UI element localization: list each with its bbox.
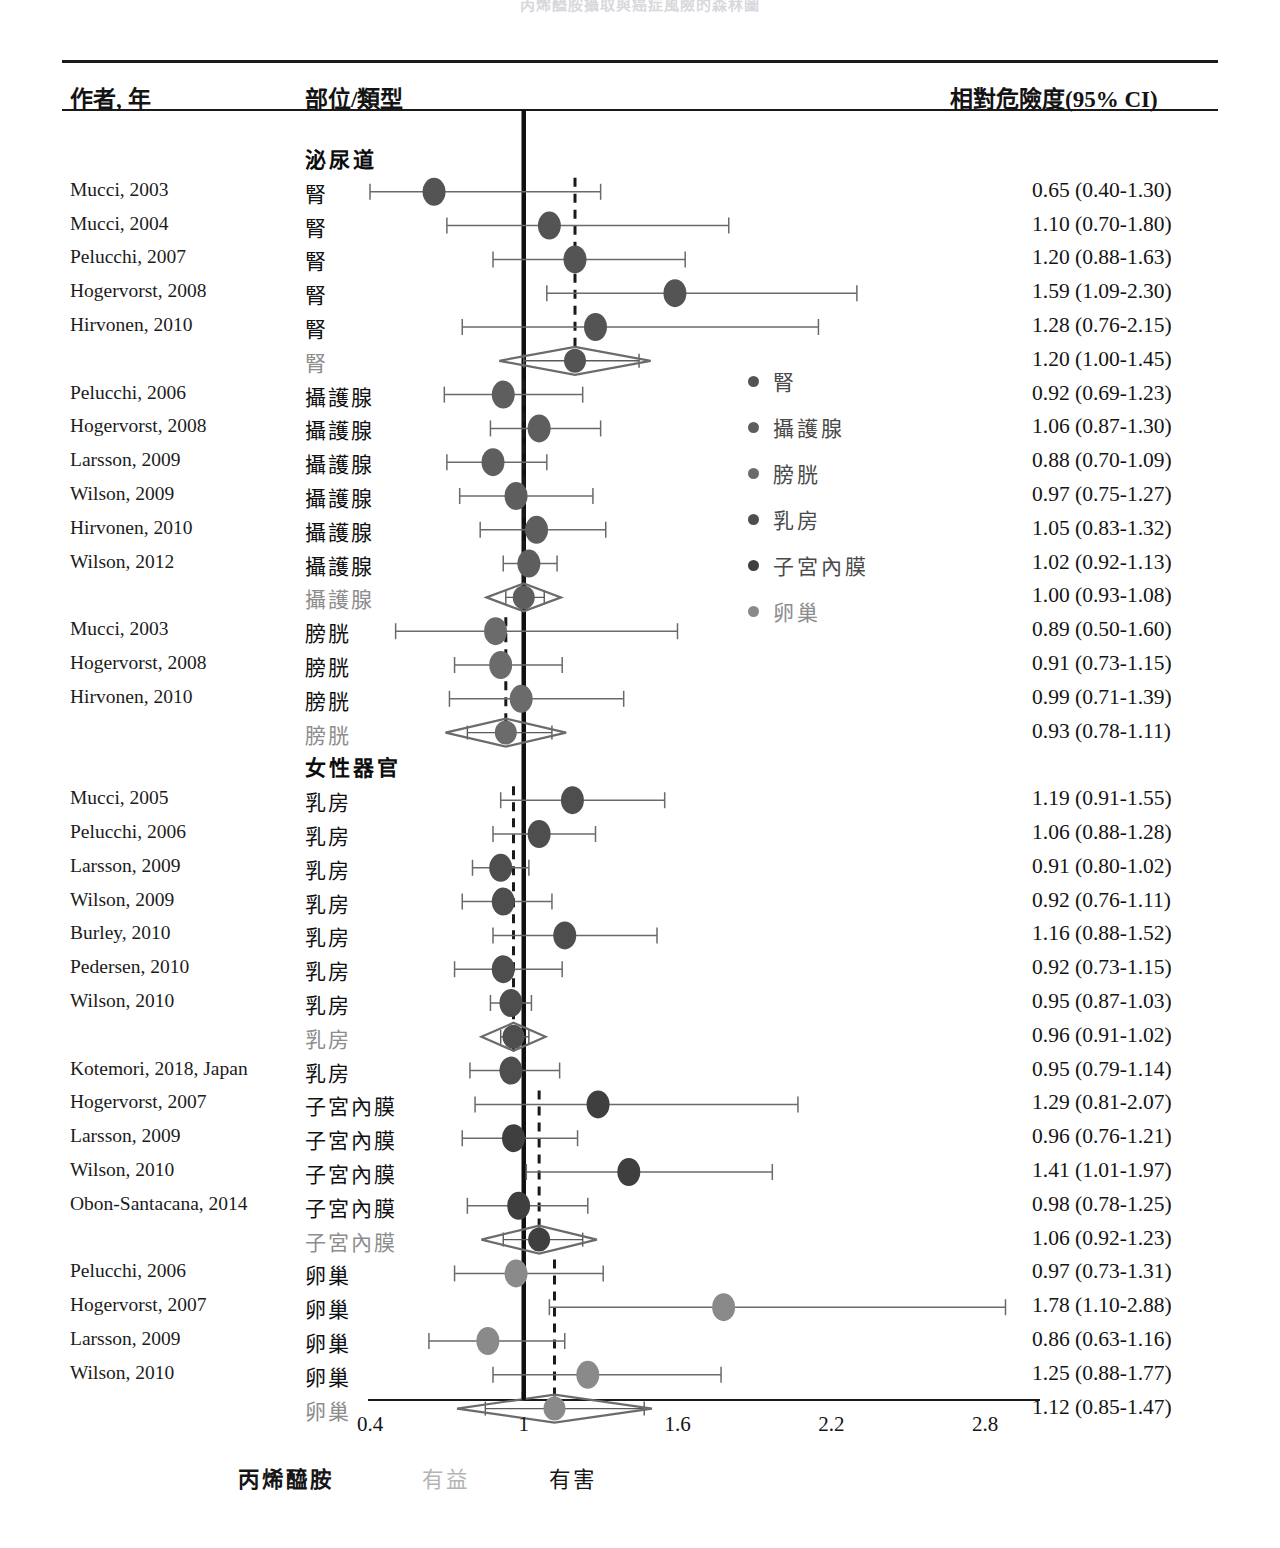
- row-site: 乳房: [305, 888, 455, 918]
- row-estimate: 0.96 (0.91-1.02): [1032, 1023, 1242, 1048]
- row-author: Hogervorst, 2008: [70, 280, 302, 302]
- row-site: 膀胱: [305, 617, 455, 647]
- row-site: 乳房: [305, 786, 455, 816]
- header-top-rule: [62, 60, 1218, 63]
- row-site: 乳房: [305, 955, 455, 985]
- row-estimate: 0.95 (0.87-1.03): [1032, 989, 1242, 1014]
- row-estimate: 1.78 (1.10-2.88): [1032, 1293, 1242, 1318]
- row-estimate: 1.29 (0.81-2.07): [1032, 1090, 1242, 1115]
- row-author: Wilson, 2010: [70, 1159, 302, 1181]
- row-estimate: 1.12 (0.85-1.47): [1032, 1395, 1242, 1420]
- footer-harm-label: 有害: [549, 1462, 597, 1493]
- row-site: 攝護腺: [305, 550, 455, 580]
- row-author: Hirvonen, 2010: [70, 686, 302, 708]
- row-estimate: 1.25 (0.88-1.77): [1032, 1361, 1242, 1386]
- row-estimate: 0.91 (0.80-1.02): [1032, 854, 1242, 879]
- row-site: 卵巢: [305, 1293, 455, 1323]
- row-estimate: 1.19 (0.91-1.55): [1032, 786, 1242, 811]
- row-author: Mucci, 2003: [70, 618, 302, 640]
- row-site: 乳房: [305, 921, 455, 951]
- row-estimate: 1.28 (0.76-2.15): [1032, 313, 1242, 338]
- legend-label: 攝護腺: [773, 412, 845, 442]
- row-estimate: 0.95 (0.79-1.14): [1032, 1057, 1242, 1082]
- row-author: Larsson, 2009: [70, 1328, 302, 1350]
- row-site: 腎: [305, 313, 455, 343]
- row-author: Mucci, 2004: [70, 213, 302, 235]
- row-estimate: 1.20 (1.00-1.45): [1032, 347, 1242, 372]
- row-estimate: 1.06 (0.87-1.30): [1032, 414, 1242, 439]
- row-author: Pelucchi, 2006: [70, 382, 302, 404]
- row-site: 腎: [305, 279, 455, 309]
- row-author: Wilson, 2010: [70, 1362, 302, 1384]
- legend-label: 膀胱: [773, 458, 821, 488]
- forest-plot: 丙烯醯胺攝取與癌症風險的森林圖 作者, 年 部位/類型 相對危險度(95% CI…: [0, 0, 1280, 1548]
- row-site: 子宮內膜: [305, 1192, 455, 1222]
- row-site: 攝護腺: [305, 583, 455, 613]
- row-site: 卵巢: [305, 1361, 455, 1391]
- row-estimate: 0.89 (0.50-1.60): [1032, 617, 1242, 642]
- row-estimate: 1.16 (0.88-1.52): [1032, 921, 1242, 946]
- legend-item: 膀胱: [748, 450, 978, 496]
- row-author: Mucci, 2005: [70, 787, 302, 809]
- row-site: 腎: [305, 245, 455, 275]
- row-site: 乳房: [305, 1057, 455, 1087]
- legend-dot-icon: [748, 606, 759, 617]
- legend-dot-icon: [748, 514, 759, 525]
- column-header-author: 作者, 年: [70, 80, 151, 114]
- row-estimate: 0.93 (0.78-1.11): [1032, 719, 1242, 744]
- row-estimate: 0.92 (0.73-1.15): [1032, 955, 1242, 980]
- row-site: 膀胱: [305, 719, 455, 749]
- row-author: Hogervorst, 2008: [70, 415, 302, 437]
- row-estimate: 0.92 (0.69-1.23): [1032, 381, 1242, 406]
- row-author: Hogervorst, 2007: [70, 1091, 302, 1113]
- row-estimate: 1.02 (0.92-1.13): [1032, 550, 1242, 575]
- row-estimate: 0.98 (0.78-1.25): [1032, 1192, 1242, 1217]
- row-author: Larsson, 2009: [70, 449, 302, 471]
- row-site: 子宮內膜: [305, 1226, 455, 1256]
- row-site: 攝護腺: [305, 448, 455, 478]
- row-estimate: 0.91 (0.73-1.15): [1032, 651, 1242, 676]
- row-estimate: 1.20 (0.88-1.63): [1032, 245, 1242, 270]
- column-header-site: 部位/類型: [305, 80, 403, 114]
- footer-exposure-label: 丙烯醯胺: [238, 1462, 334, 1493]
- footer-benefit-label: 有益: [422, 1462, 470, 1493]
- legend-label: 乳房: [773, 504, 821, 534]
- row-estimate: 0.99 (0.71-1.39): [1032, 685, 1242, 710]
- row-site: 腎: [305, 212, 455, 242]
- row-author: Hogervorst, 2008: [70, 652, 302, 674]
- row-site: 乳房: [305, 1023, 455, 1053]
- row-author: Wilson, 2009: [70, 483, 302, 505]
- row-estimate: 1.06 (0.88-1.28): [1032, 820, 1242, 845]
- axis-tick-label: 0.4: [357, 1412, 383, 1437]
- row-site: 子宮內膜: [305, 1158, 455, 1188]
- axis-bottom-rule: [368, 1399, 1040, 1401]
- group-header: 女性器官: [305, 751, 455, 781]
- row-estimate: 1.10 (0.70-1.80): [1032, 212, 1242, 237]
- row-estimate: 1.05 (0.83-1.32): [1032, 516, 1242, 541]
- legend-label: 卵巢: [773, 596, 821, 626]
- row-site: 乳房: [305, 820, 455, 850]
- row-estimate: 0.65 (0.40-1.30): [1032, 178, 1242, 203]
- axis-tick-label: 1.6: [664, 1412, 690, 1437]
- column-header-rr: 相對危險度(95% CI): [950, 80, 1158, 114]
- row-estimate: 0.86 (0.63-1.16): [1032, 1327, 1242, 1352]
- row-estimate: 0.92 (0.76-1.11): [1032, 888, 1242, 913]
- row-author: Larsson, 2009: [70, 1125, 302, 1147]
- row-site: 腎: [305, 347, 455, 377]
- axis-tick-label: 2.8: [972, 1412, 998, 1437]
- row-site: 攝護腺: [305, 482, 455, 512]
- row-estimate: 0.97 (0.75-1.27): [1032, 482, 1242, 507]
- row-site: 腎: [305, 178, 455, 208]
- row-author: Larsson, 2009: [70, 855, 302, 877]
- row-estimate: 0.96 (0.76-1.21): [1032, 1124, 1242, 1149]
- legend: 腎攝護腺膀胱乳房子宮內膜卵巢: [748, 358, 978, 634]
- row-author: Pelucchi, 2007: [70, 246, 302, 268]
- row-site: 攝護腺: [305, 414, 455, 444]
- legend-item: 卵巢: [748, 588, 978, 634]
- group-header: 泌尿道: [305, 143, 455, 173]
- legend-dot-icon: [748, 376, 759, 387]
- page-title: 丙烯醯胺攝取與癌症風險的森林圖: [0, 0, 1280, 18]
- row-site: 攝護腺: [305, 516, 455, 546]
- row-estimate: 0.88 (0.70-1.09): [1032, 448, 1242, 473]
- row-author: Hirvonen, 2010: [70, 517, 302, 539]
